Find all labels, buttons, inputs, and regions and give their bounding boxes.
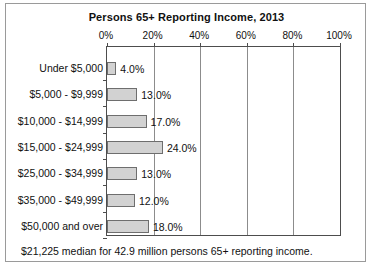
bar-value-label: 13.0% — [141, 168, 171, 180]
x-axis-tick-mark — [107, 43, 108, 47]
y-axis-tick-mark — [103, 133, 107, 134]
y-axis-tick-mark — [103, 238, 107, 239]
bar — [107, 141, 163, 154]
gridline — [200, 47, 201, 235]
bar-value-label: 12.0% — [139, 195, 169, 207]
bar-value-label: 17.0% — [151, 116, 181, 128]
y-axis-tick-mark — [103, 106, 107, 107]
x-axis-tick-label: 80% — [282, 30, 302, 41]
category-label: $10,000 - $14,999 — [18, 115, 103, 127]
bar-value-label: 18.0% — [153, 221, 183, 233]
x-axis-tick-label: 100% — [326, 30, 352, 41]
category-label: Under $5,000 — [39, 62, 103, 74]
x-axis-tick-label: 40% — [189, 30, 209, 41]
footnote-text: $21,225 median for 42.9 million persons … — [21, 245, 313, 257]
plot-area: 4.0%13.0%17.0%24.0%13.0%12.0%18.0% — [106, 46, 341, 236]
category-label: $15,000 - $24,999 — [18, 141, 103, 153]
x-axis-tick-mark — [293, 43, 294, 47]
bar — [107, 220, 149, 233]
x-axis-tick-mark — [154, 43, 155, 47]
x-axis-tick-labels: 0%20%40%60%80%100% — [6, 30, 367, 44]
bar — [107, 194, 135, 207]
x-axis-tick-label: 60% — [236, 30, 256, 41]
y-axis-tick-mark — [103, 159, 107, 160]
bar — [107, 88, 137, 101]
x-axis-tick-label: 0% — [99, 30, 113, 41]
bar — [107, 167, 137, 180]
gridline — [247, 47, 248, 235]
bar-value-label: 24.0% — [167, 142, 197, 154]
gridline — [293, 47, 294, 235]
y-axis-tick-mark — [103, 212, 107, 213]
category-label: $50,000 and over — [21, 220, 103, 232]
x-axis-tick-label: 20% — [143, 30, 163, 41]
chart-figure: Persons 65+ Reporting Income, 2013 0%20%… — [5, 3, 366, 262]
x-axis-tick-mark — [340, 43, 341, 47]
category-label: $5,000 - $9,999 — [29, 88, 103, 100]
page-title: Persons 65+ Reporting Income, 2013 — [6, 11, 367, 23]
category-label: $25,000 - $34,999 — [18, 167, 103, 179]
bar-value-label: 4.0% — [120, 63, 144, 75]
bar — [107, 62, 116, 75]
bar — [107, 115, 147, 128]
y-axis-tick-mark — [103, 185, 107, 186]
category-label: $35,000 - $49,999 — [18, 194, 103, 206]
bar-value-label: 13.0% — [141, 89, 171, 101]
x-axis-tick-mark — [247, 43, 248, 47]
x-axis-tick-mark — [200, 43, 201, 47]
y-axis-tick-mark — [103, 80, 107, 81]
